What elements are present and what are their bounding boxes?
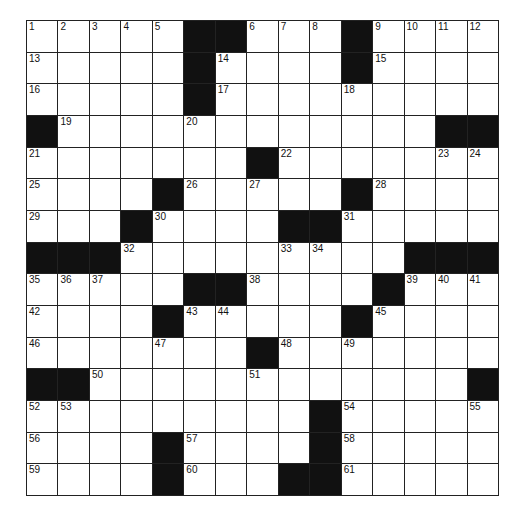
grid-cell[interactable] xyxy=(153,274,183,305)
grid-cell[interactable] xyxy=(153,53,183,84)
grid-cell[interactable] xyxy=(153,116,183,147)
grid-cell[interactable] xyxy=(121,369,151,400)
grid-cell[interactable] xyxy=(58,148,88,179)
grid-cell[interactable] xyxy=(58,464,88,495)
grid-cell[interactable] xyxy=(405,306,435,337)
grid-cell[interactable] xyxy=(216,211,246,242)
grid-cell[interactable] xyxy=(247,464,277,495)
grid-cell[interactable] xyxy=(279,433,309,464)
grid-cell[interactable] xyxy=(279,116,309,147)
grid-cell[interactable] xyxy=(247,53,277,84)
grid-cell[interactable] xyxy=(436,369,466,400)
grid-cell[interactable]: 8 xyxy=(310,21,340,52)
grid-cell[interactable]: 45 xyxy=(373,306,403,337)
grid-cell[interactable] xyxy=(373,369,403,400)
grid-cell[interactable] xyxy=(436,84,466,115)
grid-cell[interactable] xyxy=(184,401,214,432)
grid-cell[interactable]: 61 xyxy=(342,464,372,495)
grid-cell[interactable] xyxy=(405,338,435,369)
grid-cell[interactable] xyxy=(310,84,340,115)
grid-cell[interactable]: 2 xyxy=(58,21,88,52)
grid-cell[interactable]: 49 xyxy=(342,338,372,369)
grid-cell[interactable] xyxy=(121,179,151,210)
grid-cell[interactable]: 41 xyxy=(468,274,498,305)
grid-cell[interactable] xyxy=(184,338,214,369)
grid-cell[interactable]: 12 xyxy=(468,21,498,52)
grid-cell[interactable] xyxy=(468,179,498,210)
grid-cell[interactable]: 38 xyxy=(247,274,277,305)
grid-cell[interactable] xyxy=(121,53,151,84)
grid-cell[interactable]: 34 xyxy=(310,243,340,274)
grid-cell[interactable] xyxy=(468,464,498,495)
grid-cell[interactable] xyxy=(216,179,246,210)
grid-cell[interactable] xyxy=(58,84,88,115)
grid-cell[interactable]: 33 xyxy=(279,243,309,274)
grid-cell[interactable] xyxy=(342,274,372,305)
grid-cell[interactable] xyxy=(405,84,435,115)
grid-cell[interactable] xyxy=(184,243,214,274)
grid-cell[interactable]: 32 xyxy=(121,243,151,274)
grid-cell[interactable]: 16 xyxy=(27,84,57,115)
grid-cell[interactable] xyxy=(90,401,120,432)
grid-cell[interactable] xyxy=(310,274,340,305)
grid-cell[interactable] xyxy=(121,464,151,495)
grid-cell[interactable]: 60 xyxy=(184,464,214,495)
grid-cell[interactable] xyxy=(405,401,435,432)
grid-cell[interactable] xyxy=(436,306,466,337)
grid-cell[interactable] xyxy=(121,148,151,179)
grid-cell[interactable]: 18 xyxy=(342,84,372,115)
grid-cell[interactable] xyxy=(153,84,183,115)
grid-cell[interactable] xyxy=(468,84,498,115)
grid-cell[interactable] xyxy=(468,338,498,369)
grid-cell[interactable]: 5 xyxy=(153,21,183,52)
grid-cell[interactable] xyxy=(310,148,340,179)
grid-cell[interactable]: 9 xyxy=(373,21,403,52)
grid-cell[interactable] xyxy=(247,211,277,242)
grid-cell[interactable] xyxy=(436,433,466,464)
grid-cell[interactable]: 1 xyxy=(27,21,57,52)
grid-cell[interactable]: 43 xyxy=(184,306,214,337)
grid-cell[interactable] xyxy=(121,274,151,305)
grid-cell[interactable] xyxy=(90,338,120,369)
grid-cell[interactable]: 11 xyxy=(436,21,466,52)
grid-cell[interactable] xyxy=(310,369,340,400)
grid-cell[interactable] xyxy=(58,211,88,242)
grid-cell[interactable] xyxy=(373,116,403,147)
grid-cell[interactable]: 30 xyxy=(153,211,183,242)
grid-cell[interactable]: 14 xyxy=(216,53,246,84)
grid-cell[interactable]: 36 xyxy=(58,274,88,305)
grid-cell[interactable]: 57 xyxy=(184,433,214,464)
grid-cell[interactable] xyxy=(58,179,88,210)
grid-cell[interactable]: 27 xyxy=(247,179,277,210)
grid-cell[interactable]: 6 xyxy=(247,21,277,52)
grid-cell[interactable]: 51 xyxy=(247,369,277,400)
grid-cell[interactable] xyxy=(373,338,403,369)
grid-cell[interactable]: 26 xyxy=(184,179,214,210)
grid-cell[interactable]: 31 xyxy=(342,211,372,242)
grid-cell[interactable]: 10 xyxy=(405,21,435,52)
grid-cell[interactable] xyxy=(153,243,183,274)
grid-cell[interactable] xyxy=(90,464,120,495)
grid-cell[interactable] xyxy=(184,369,214,400)
grid-cell[interactable] xyxy=(247,433,277,464)
grid-cell[interactable] xyxy=(58,338,88,369)
grid-cell[interactable] xyxy=(153,401,183,432)
grid-cell[interactable] xyxy=(436,179,466,210)
grid-cell[interactable]: 24 xyxy=(468,148,498,179)
grid-cell[interactable] xyxy=(90,148,120,179)
grid-cell[interactable] xyxy=(90,53,120,84)
grid-cell[interactable]: 15 xyxy=(373,53,403,84)
grid-cell[interactable] xyxy=(310,179,340,210)
grid-cell[interactable] xyxy=(468,211,498,242)
grid-cell[interactable] xyxy=(247,401,277,432)
grid-cell[interactable]: 59 xyxy=(27,464,57,495)
grid-cell[interactable] xyxy=(279,369,309,400)
grid-cell[interactable]: 19 xyxy=(58,116,88,147)
grid-cell[interactable]: 7 xyxy=(279,21,309,52)
grid-cell[interactable] xyxy=(153,148,183,179)
grid-cell[interactable]: 52 xyxy=(27,401,57,432)
grid-cell[interactable] xyxy=(216,433,246,464)
grid-cell[interactable] xyxy=(405,53,435,84)
grid-cell[interactable]: 55 xyxy=(468,401,498,432)
grid-cell[interactable]: 56 xyxy=(27,433,57,464)
